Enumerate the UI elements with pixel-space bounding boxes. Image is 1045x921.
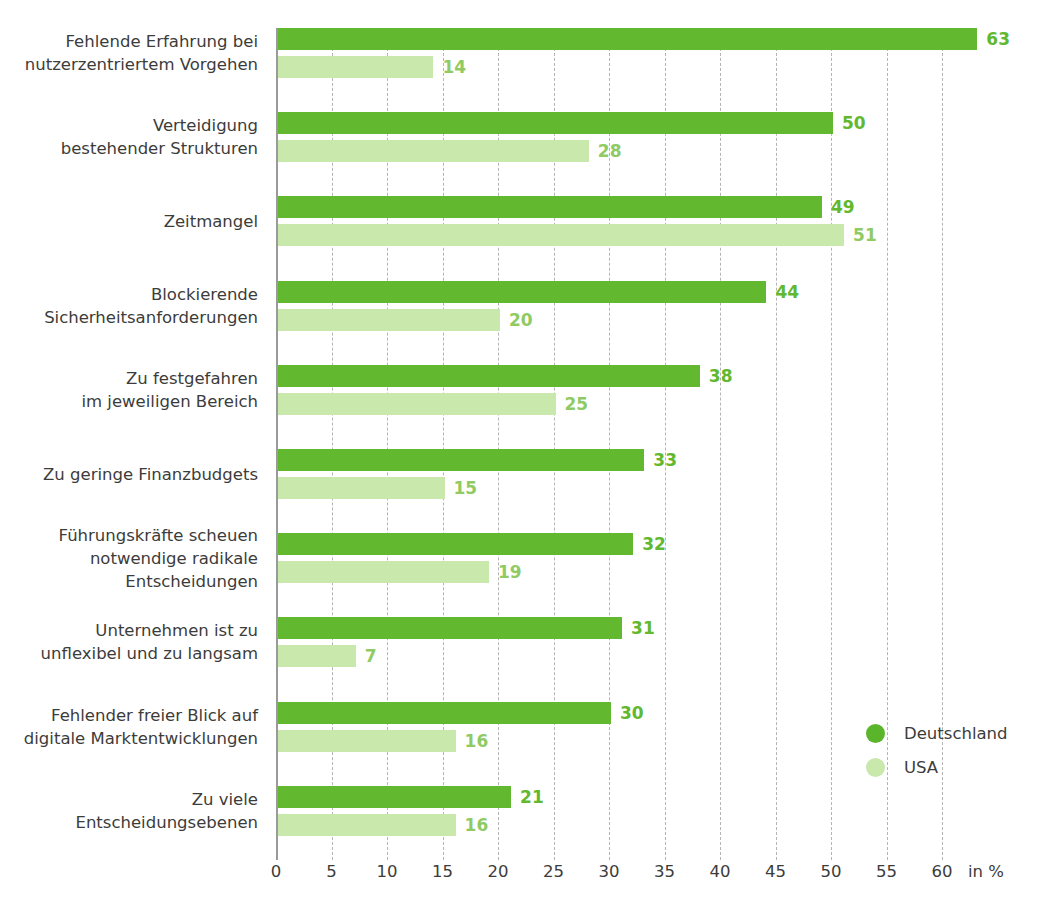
bar-chart: Fehlende Erfahrung bei nutzerzentriertem… (0, 0, 1045, 921)
x-tick-label-35: 35 (654, 862, 675, 881)
bar-deutschland[interactable] (278, 281, 766, 303)
bar-deutschland[interactable] (278, 449, 644, 471)
bar-usa[interactable] (278, 645, 356, 667)
legend-item-usa[interactable]: USA (866, 750, 1008, 784)
category-label: Unternehmen ist zu unflexibel und zu lan… (0, 619, 258, 665)
bar-usa[interactable] (278, 309, 500, 331)
category-label: Fehlender freier Blick auf digitale Mark… (0, 704, 258, 750)
bar-value-deutschland: 32 (642, 533, 666, 555)
bar-value-usa: 28 (598, 140, 622, 162)
x-tick-label-20: 20 (488, 862, 509, 881)
bar-usa[interactable] (278, 393, 556, 415)
bar-value-deutschland: 31 (631, 617, 655, 639)
bar-deutschland[interactable] (278, 533, 633, 555)
category-label: Zu geringe Finanzbudgets (0, 463, 258, 486)
category-label: Fehlende Erfahrung bei nutzerzentriertem… (0, 30, 258, 76)
category-labels: Fehlende Erfahrung bei nutzerzentriertem… (0, 28, 258, 860)
bar-value-usa: 7 (365, 645, 377, 667)
legend-label-deutschland: Deutschland (904, 724, 1008, 743)
bar-value-usa: 20 (509, 309, 533, 331)
bar-value-usa: 15 (454, 477, 478, 499)
x-tick-label-55: 55 (876, 862, 897, 881)
category-label: Zu festgefahren im jeweiligen Bereich (0, 367, 258, 413)
x-tick-label-0: 0 (271, 862, 282, 881)
bar-value-usa: 16 (465, 730, 489, 752)
x-tick-label-5: 5 (326, 862, 337, 881)
x-tick-label-10: 10 (377, 862, 398, 881)
bar-deutschland[interactable] (278, 702, 611, 724)
bar-deutschland[interactable] (278, 28, 977, 50)
category-label: Zeitmangel (0, 210, 258, 233)
x-tick-label-30: 30 (599, 862, 620, 881)
bar-value-usa: 25 (565, 393, 589, 415)
category-label: Führungskräfte scheuen notwendige radika… (0, 524, 258, 593)
bar-deutschland[interactable] (278, 365, 700, 387)
bar-deutschland[interactable] (278, 617, 622, 639)
x-tick-label-15: 15 (432, 862, 453, 881)
legend-label-usa: USA (904, 758, 938, 777)
legend-swatch-deutschland-icon (866, 724, 885, 743)
x-tick-label-50: 50 (821, 862, 842, 881)
x-tick-label-25: 25 (543, 862, 564, 881)
bar-usa[interactable] (278, 477, 445, 499)
bar-usa[interactable] (278, 730, 456, 752)
x-tick-label-40: 40 (710, 862, 731, 881)
legend-item-deutschland[interactable]: Deutschland (866, 716, 1008, 750)
bar-value-deutschland: 50 (842, 112, 866, 134)
bar-usa[interactable] (278, 140, 589, 162)
bar-usa[interactable] (278, 224, 844, 246)
bar-usa[interactable] (278, 814, 456, 836)
category-label: Verteidigung bestehender Strukturen (0, 114, 258, 160)
bar-value-deutschland: 63 (986, 28, 1010, 50)
bar-value-usa: 19 (498, 561, 522, 583)
bar-value-usa: 51 (853, 224, 877, 246)
category-label: Zu viele Entscheidungsebenen (0, 788, 258, 834)
bar-value-usa: 16 (465, 814, 489, 836)
legend-swatch-usa-icon (866, 758, 885, 777)
x-tick-label-60: 60 (932, 862, 953, 881)
bar-value-deutschland: 30 (620, 702, 644, 724)
bar-value-deutschland: 21 (520, 786, 544, 808)
bar-value-deutschland: 38 (709, 365, 733, 387)
x-tick-label-45: 45 (765, 862, 786, 881)
bar-usa[interactable] (278, 561, 489, 583)
bar-value-deutschland: 49 (831, 196, 855, 218)
legend: Deutschland USA (866, 716, 1008, 784)
bar-value-deutschland: 44 (775, 281, 799, 303)
x-axis-unit-label: in % (968, 862, 1004, 881)
bar-usa[interactable] (278, 56, 433, 78)
bar-deutschland[interactable] (278, 196, 822, 218)
x-axis: in % 051015202530354045505560 (0, 862, 1045, 902)
category-label: Blockierende Sicherheitsanforderungen (0, 283, 258, 329)
bar-value-usa: 14 (442, 56, 466, 78)
bar-value-deutschland: 33 (653, 449, 677, 471)
bar-deutschland[interactable] (278, 112, 833, 134)
bar-deutschland[interactable] (278, 786, 511, 808)
